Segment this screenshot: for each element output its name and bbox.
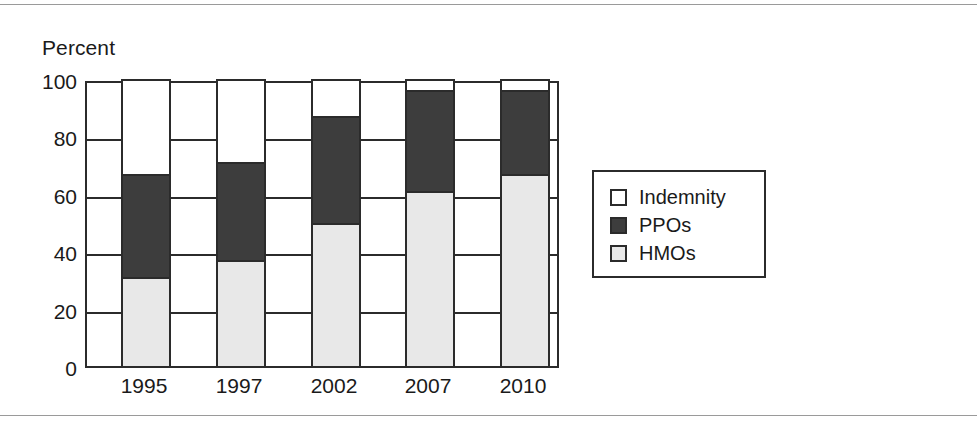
bar-segment-hmos: [121, 277, 171, 366]
bar-1995: [121, 79, 171, 366]
bar-segment-hmos: [311, 223, 361, 367]
bar-2010: [500, 79, 550, 366]
legend-item-ppos: PPOs: [610, 211, 764, 239]
bottom-divider-rule: [0, 415, 977, 416]
legend-item-indemnity: Indemnity: [610, 183, 764, 211]
bar-segment-hmos: [405, 191, 455, 366]
bar-1997: [216, 79, 266, 366]
legend-label: PPOs: [639, 215, 691, 235]
legend-swatch-ppos: [610, 217, 627, 234]
legend-item-hmos: HMOs: [610, 239, 764, 267]
plot-area: [85, 81, 559, 368]
y-tick-label: 100: [0, 71, 77, 92]
x-tick-label: 1997: [202, 374, 276, 398]
x-tick-label: 1995: [107, 374, 181, 398]
legend-label: Indemnity: [639, 187, 726, 207]
y-tick-label: 20: [0, 300, 77, 321]
y-tick-label: 0: [0, 358, 77, 379]
y-tick-label: 40: [0, 243, 77, 264]
bar-2007: [405, 79, 455, 366]
legend-label: HMOs: [639, 243, 696, 263]
y-tick-label: 60: [0, 185, 77, 206]
legend-rows: IndemnityPPOsHMOs: [610, 183, 764, 267]
plot-inner: [87, 83, 557, 366]
y-axis-title: Percent: [42, 36, 115, 60]
legend-swatch-hmos: [610, 245, 627, 262]
bar-segment-hmos: [216, 260, 266, 366]
x-tick-label: 2007: [391, 374, 465, 398]
bar-2002: [311, 79, 361, 366]
chart-legend: IndemnityPPOsHMOs: [592, 170, 766, 278]
x-tick-label: 2010: [486, 374, 560, 398]
x-tick-label: 2002: [297, 374, 371, 398]
y-tick-label: 80: [0, 128, 77, 149]
legend-swatch-indemnity: [610, 189, 627, 206]
chart-figure: Percent 020406080100 1995199720022007201…: [0, 0, 977, 431]
bar-segment-hmos: [500, 174, 550, 366]
top-divider-rule: [0, 4, 977, 5]
